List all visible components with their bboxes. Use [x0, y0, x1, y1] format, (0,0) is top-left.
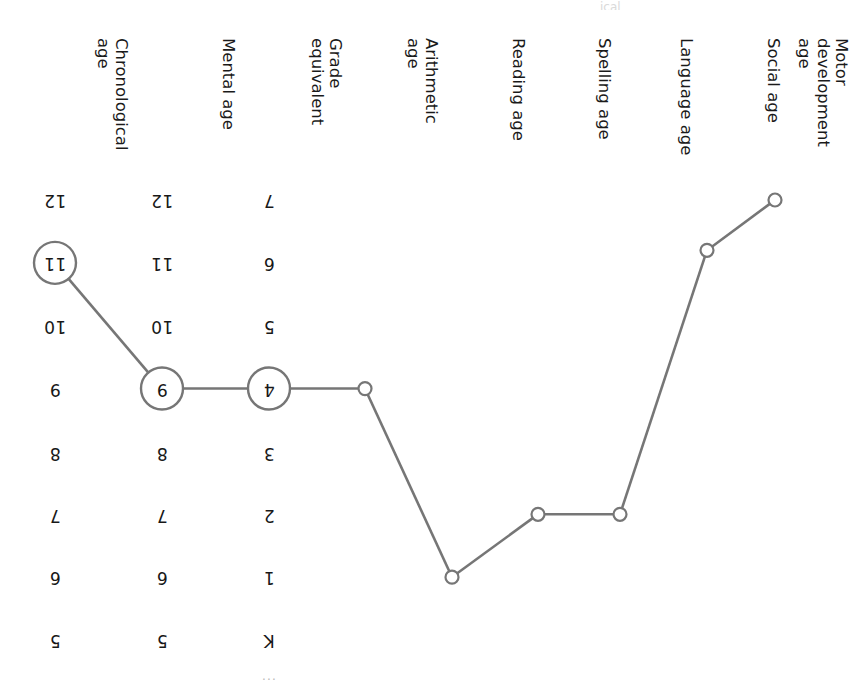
category-label-line: Reading age [509, 38, 527, 188]
scale-value-grade-equivalent: 7 [263, 192, 274, 209]
data-point-marker [446, 571, 459, 584]
scale-value-chronological-age: 6 [49, 569, 60, 586]
scale-value-grade-equivalent: 1 [263, 569, 274, 586]
scale-value-chronological-age: 7 [49, 507, 60, 524]
category-label-line: Language age [677, 38, 695, 188]
category-label-line: Motor [832, 38, 850, 188]
category-label-line: age [795, 38, 813, 188]
scale-value-mental-age: 5 [156, 632, 167, 649]
scale-value-mental-age: 11 [151, 255, 174, 272]
category-label-line: age [93, 38, 111, 188]
category-label-line: Spelling age [595, 38, 613, 188]
scale-value-chronological-age: 9 [49, 381, 60, 398]
data-point-marker [769, 194, 782, 207]
scale-value-chronological-age: 5 [49, 632, 60, 649]
scale-value-mental-age: 6 [156, 569, 167, 586]
scale-value-grade-equivalent: 3 [263, 445, 274, 462]
scale-value-grade-equivalent: 6 [263, 255, 274, 272]
category-label-line: Mental age [219, 38, 237, 188]
profile-segment [457, 518, 533, 573]
profile-segment [712, 204, 770, 247]
data-point-marker [359, 382, 372, 395]
profile-segment [368, 394, 450, 571]
category-label-line: development [813, 38, 831, 188]
category-label-line: Arithmetic [422, 38, 440, 188]
data-point-marker [701, 244, 714, 257]
scale-value-chronological-age: 8 [49, 445, 60, 462]
scale-value-mental-age: 12 [151, 192, 174, 209]
data-point-marker [614, 508, 627, 521]
category-label-line: Chronological [112, 38, 130, 188]
scale-value-grade-equivalent: 5 [263, 318, 274, 335]
scale-value-grade-equivalent: 2 [263, 507, 274, 524]
data-point-marker [532, 508, 545, 521]
scale-value-chronological-age: 11 [44, 255, 67, 272]
scale-value-mental-age: 7 [156, 507, 167, 524]
category-label-chronological-age: Chronologicalage [0, 38, 130, 188]
category-label-line: age [403, 38, 421, 188]
profile-segment [69, 279, 149, 373]
scale-value-chronological-age: 10 [44, 318, 67, 335]
scale-value-grade-equivalent: K [263, 632, 275, 649]
category-label-line: Grade [326, 38, 344, 188]
scale-value-mental-age: 8 [156, 445, 167, 462]
category-label-line: equivalent [307, 38, 325, 188]
scale-value-mental-age: 10 [151, 318, 174, 335]
scale-value-chronological-age: 12 [44, 192, 67, 209]
profile-segment [622, 256, 705, 508]
scale-value-mental-age: 9 [156, 381, 167, 398]
category-label-line: Social age [764, 38, 782, 188]
scan-bottom-caption-fragment: ical [600, 0, 830, 10]
scale-value-grade-equivalent: 4 [263, 381, 274, 398]
